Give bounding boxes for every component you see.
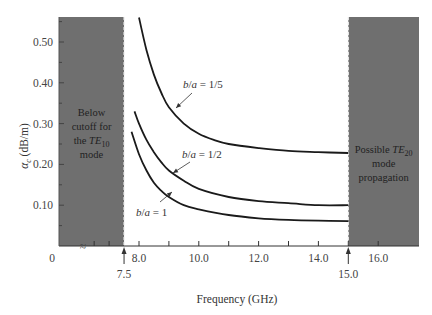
x-tick-label: 0 xyxy=(49,252,55,264)
curve-label: b/a = 1/5 xyxy=(183,78,223,90)
curve-ba-1-2 xyxy=(135,111,349,205)
axis-break-icon: ≈ xyxy=(80,240,86,252)
x-tick-label: 10.0 xyxy=(189,252,209,264)
x-tick-label: 14.0 xyxy=(308,252,328,264)
attenuation-chart: Belowcutoff forthe TE10modePossible TE20… xyxy=(0,0,432,315)
y-tick-label: 0.10 xyxy=(33,199,53,211)
curve-label: b/a = 1 xyxy=(136,206,167,218)
shaded-regions xyxy=(59,17,419,246)
te20-text: mode xyxy=(372,158,396,169)
y-tick-label: 0.30 xyxy=(33,118,53,130)
below-cutoff-text: Below xyxy=(78,107,106,118)
y-tick-label: 0.50 xyxy=(33,36,53,48)
x-tick-label: 8.0 xyxy=(132,252,147,264)
y-tick-label: 0.40 xyxy=(33,77,53,89)
x-marker-label: 15.0 xyxy=(338,268,358,280)
x-marker-label: 7.5 xyxy=(117,268,132,280)
curve-ba-1-5 xyxy=(139,18,348,154)
te20-text: propagation xyxy=(359,172,410,183)
x-tick-label: 16.0 xyxy=(368,252,388,264)
te20-region xyxy=(348,17,419,246)
below-cutoff-text: mode xyxy=(80,149,104,160)
y-tick-label: 0.20 xyxy=(33,158,53,170)
y-axis-title: αc (dB/m) xyxy=(18,123,33,169)
curve-label: b/a = 1/2 xyxy=(182,148,222,160)
curves xyxy=(132,18,349,222)
x-tick-label: 12.0 xyxy=(249,252,269,264)
below-cutoff-text: cutoff for xyxy=(72,121,112,132)
x-axis-title: Frequency (GHz) xyxy=(197,293,278,306)
